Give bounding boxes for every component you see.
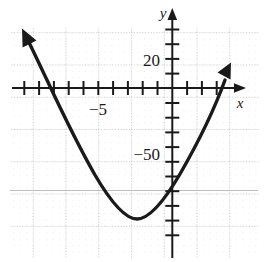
grid	[10, 28, 260, 258]
grid-major-dashes	[10, 28, 260, 258]
x-axis-label: x	[236, 95, 244, 111]
y-tick-label-neg50: −50	[133, 145, 160, 164]
y-tick-label-20: 20	[143, 51, 160, 70]
x-tick-label-neg5: −5	[89, 100, 107, 119]
y-axis-label: y	[158, 5, 167, 21]
graph-canvas: x y 20 −50 −5	[0, 0, 266, 262]
parabola-figure: x y 20 −50 −5	[0, 0, 266, 262]
